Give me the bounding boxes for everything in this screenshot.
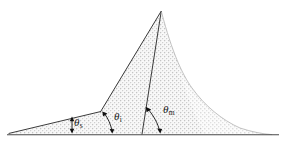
angle-label-theta-i: θi <box>114 111 122 122</box>
theta-m-subscript: m <box>169 108 175 117</box>
slope-profile-svg <box>0 0 286 150</box>
theta-m-symbol: θ <box>163 103 168 115</box>
mountain-body-fill <box>10 11 272 135</box>
theta-i-subscript: i <box>120 115 122 124</box>
angle-label-theta-m: θm <box>163 104 174 115</box>
figure-root: θs θi θm <box>0 0 286 150</box>
theta-s-symbol: θ <box>74 116 79 128</box>
theta-s-subscript: s <box>80 121 83 130</box>
angle-label-theta-s: θs <box>74 117 82 128</box>
theta-i-symbol: θ <box>114 110 119 122</box>
